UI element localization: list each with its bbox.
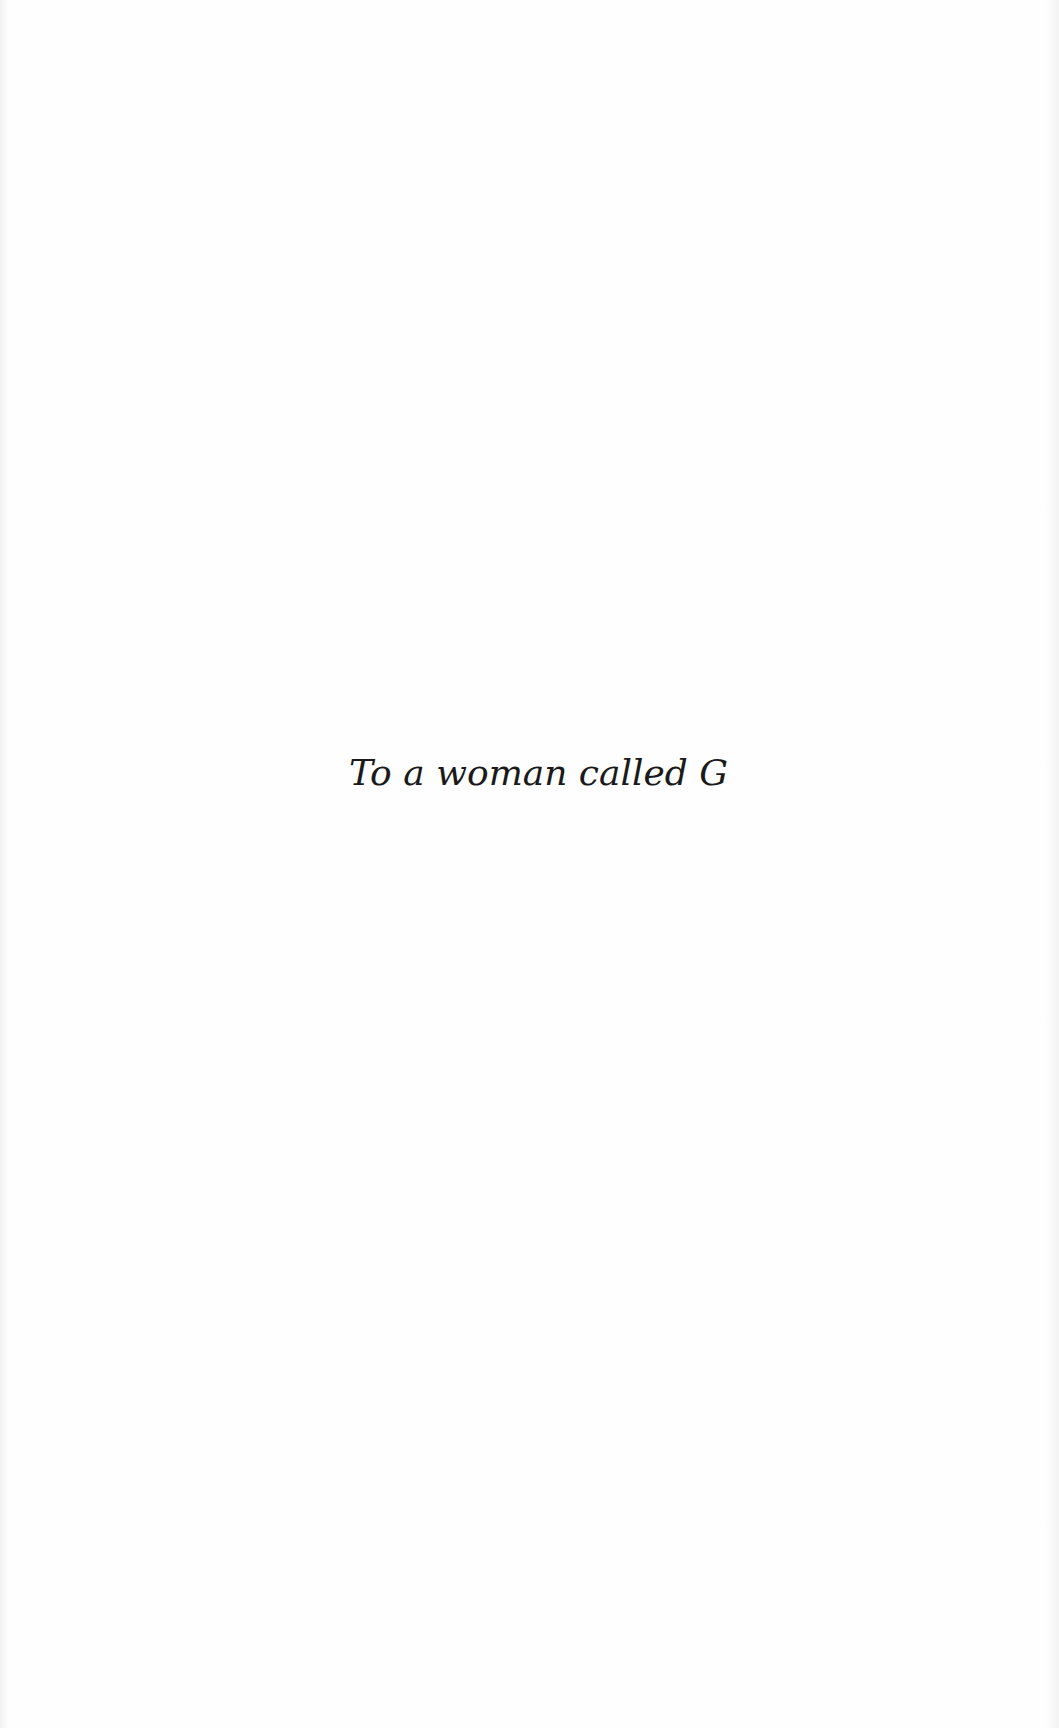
scan-edge-right <box>1045 0 1059 1728</box>
dedication-text: To a woman called G <box>0 752 1059 793</box>
scan-edge-left <box>0 0 8 1728</box>
book-page: To a woman called G <box>0 0 1059 1728</box>
